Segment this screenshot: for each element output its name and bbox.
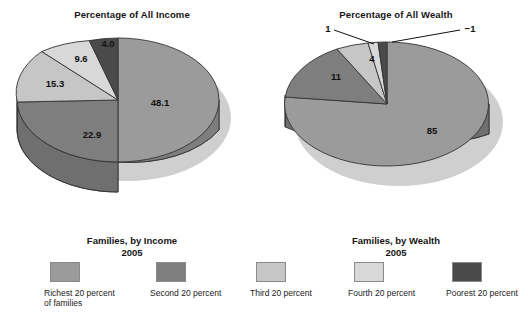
legend-label-second: Second 20 percent	[150, 288, 250, 298]
leader-line-poorest	[392, 30, 460, 42]
wealth-section-heading: Families, by Wealth 2005	[296, 235, 496, 258]
wealth-label-poorest: −1	[465, 23, 477, 34]
charts-container: Percentage of All Income	[0, 0, 528, 232]
wealth-pie-panel: Percentage of All Wealth 85	[264, 0, 528, 232]
income-label-richest: 48.1	[151, 97, 170, 108]
income-heading-text: Families, by Income	[87, 235, 177, 246]
legend-label-poorest: Poorest 20 percent	[446, 288, 528, 298]
income-label-fourth: 9.6	[74, 53, 87, 64]
income-pie-title: Percentage of All Income	[0, 9, 264, 20]
legend-label-richest: Richest 20 percent of families	[44, 288, 144, 308]
wealth-heading-text: Families, by Wealth	[352, 235, 440, 246]
wealth-label-third: 4	[369, 53, 375, 64]
income-label-second: 22.9	[83, 129, 102, 140]
legend-block: Families, by Income 2005 Families, by We…	[0, 232, 528, 326]
legend-swatch-richest	[50, 262, 80, 282]
legend-swatch-second	[156, 262, 186, 282]
wealth-pie-chart: 85 11 4 1 −1	[264, 22, 528, 232]
income-pie-panel: Percentage of All Income	[0, 0, 264, 232]
legend-swatch-third	[256, 262, 286, 282]
legend-label-fourth: Fourth 20 percent	[348, 288, 448, 298]
wealth-label-richest: 85	[427, 125, 438, 136]
income-section-heading: Families, by Income 2005	[32, 235, 232, 258]
legend-swatch-fourth	[354, 262, 384, 282]
wealth-pie-title: Percentage of All Wealth	[264, 9, 528, 20]
legend-headings: Families, by Income 2005 Families, by We…	[0, 232, 528, 262]
income-label-third: 15.3	[46, 78, 65, 89]
legend-item-fourth: Fourth 20 percent	[348, 262, 448, 298]
legend-item-poorest: Poorest 20 percent	[446, 262, 528, 298]
legend-items: Richest 20 percent of families Second 20…	[0, 262, 528, 326]
legend-swatch-poorest	[452, 262, 482, 282]
legend-item-second: Second 20 percent	[150, 262, 250, 298]
wealth-heading-year: 2005	[296, 247, 496, 259]
legend-item-richest: Richest 20 percent of families	[44, 262, 144, 308]
leader-line-fourth	[334, 30, 374, 44]
legend-label-third: Third 20 percent	[250, 288, 350, 298]
income-heading-year: 2005	[32, 247, 232, 259]
legend-item-third: Third 20 percent	[250, 262, 350, 298]
income-label-poorest: 4.0	[101, 38, 114, 49]
wealth-label-fourth: 1	[325, 23, 331, 34]
income-pie-chart: 48.1 22.9 15.3 9.6 4.0	[0, 22, 264, 232]
wealth-label-second: 11	[331, 71, 342, 82]
